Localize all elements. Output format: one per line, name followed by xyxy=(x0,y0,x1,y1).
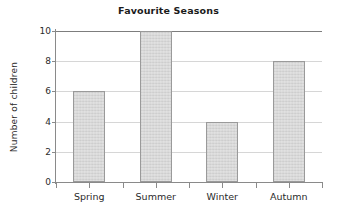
y-axis-title-label: Number of children xyxy=(9,61,19,151)
bar-spring xyxy=(73,91,105,182)
x-axis-label-spring: Spring xyxy=(56,191,123,202)
y-tick-label-2: 2 xyxy=(31,148,51,157)
x-tick-mark-mid-2 xyxy=(222,183,223,188)
x-axis-label-winter: Winter xyxy=(189,191,256,202)
y-tick-mark-6 xyxy=(52,91,56,92)
y-tick-label-6: 6 xyxy=(31,87,51,96)
y-tick-mark-10 xyxy=(52,31,56,32)
y-tick-mark-2 xyxy=(52,152,56,153)
x-tick-mark-mid-3 xyxy=(289,183,290,188)
x-axis-label-autumn: Autumn xyxy=(256,191,323,202)
y-tick-mark-4 xyxy=(52,122,56,123)
bar-autumn xyxy=(273,61,305,182)
x-tick-mark-0 xyxy=(56,183,57,188)
y-tick-label-4: 4 xyxy=(31,118,51,127)
y-tick-label-10: 10 xyxy=(31,27,51,36)
bar-chart-figure: Favourite Seasons Number of children 108… xyxy=(0,0,337,218)
x-tick-mark-4 xyxy=(322,183,323,188)
x-tick-mark-mid-1 xyxy=(156,183,157,188)
bar-summer xyxy=(140,31,172,182)
x-tick-mark-1 xyxy=(123,183,124,188)
y-tick-mark-8 xyxy=(52,61,56,62)
x-tick-mark-2 xyxy=(189,183,190,188)
y-axis-title: Number of children xyxy=(6,31,22,182)
x-tick-mark-3 xyxy=(256,183,257,188)
y-axis-tick-labels: 1086420 xyxy=(28,31,51,182)
gridline-10 xyxy=(56,31,322,32)
chart-title: Favourite Seasons xyxy=(0,5,337,16)
x-axis-label-summer: Summer xyxy=(123,191,190,202)
x-tick-mark-mid-0 xyxy=(89,183,90,188)
y-tick-label-8: 8 xyxy=(31,57,51,66)
plot-area xyxy=(56,31,322,182)
bar-winter xyxy=(206,122,238,182)
y-tick-label-0: 0 xyxy=(31,178,51,187)
